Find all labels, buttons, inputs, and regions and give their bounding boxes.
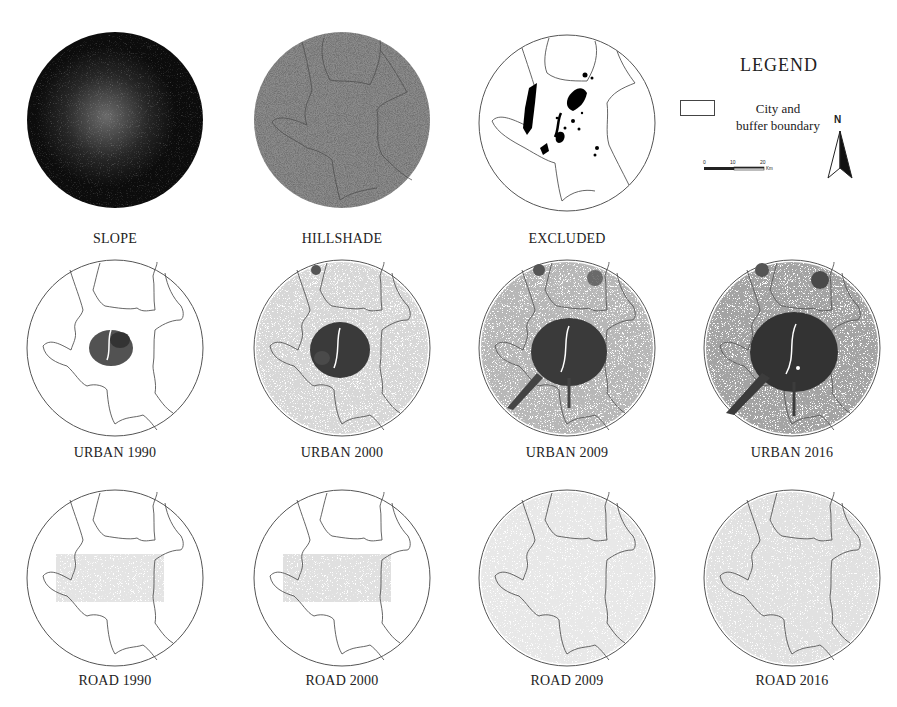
caption-urban-1990: URBAN 1990 — [15, 445, 215, 461]
svg-text:20: 20 — [760, 159, 766, 165]
map-panel-urban-1990 — [25, 258, 205, 438]
road-2000-map — [252, 488, 432, 668]
map-panel-road-2009 — [477, 488, 657, 668]
urban-2009-map — [477, 258, 657, 438]
svg-text:10: 10 — [730, 159, 736, 165]
slope-raster-map — [25, 30, 205, 210]
excluded-areas-map — [477, 33, 657, 213]
svg-text:N: N — [834, 114, 841, 125]
road-2009-map — [477, 488, 657, 668]
urban-2000-map — [252, 258, 432, 438]
map-panel-urban-2000 — [252, 258, 432, 438]
map-panel-road-2016 — [702, 488, 882, 668]
urban-1990-map — [25, 258, 205, 438]
road-1990-map — [25, 488, 205, 668]
urban-2016-map — [702, 258, 882, 438]
legend-boundary-label: City and buffer boundary — [728, 100, 828, 134]
caption-urban-2016: URBAN 2016 — [692, 445, 892, 461]
hillshade-raster-map — [252, 30, 432, 210]
caption-road-2016: ROAD 2016 — [692, 673, 892, 689]
map-panel-hillshade — [252, 30, 432, 210]
scale-bar: 0 10 20 Km — [700, 158, 780, 178]
caption-road-2000: ROAD 2000 — [242, 673, 442, 689]
legend-title: LEGEND — [740, 55, 818, 76]
road-2016-map — [702, 488, 882, 668]
map-panel-road-2000 — [252, 488, 432, 668]
legend-boundary-symbol — [680, 100, 715, 116]
caption-road-1990: ROAD 1990 — [15, 673, 215, 689]
map-panel-urban-2009 — [477, 258, 657, 438]
caption-slope: SLOPE — [15, 231, 215, 247]
map-panel-excluded — [477, 33, 657, 213]
caption-road-2009: ROAD 2009 — [467, 673, 667, 689]
svg-text:0: 0 — [703, 159, 706, 165]
svg-text:Km: Km — [766, 166, 773, 171]
caption-urban-2000: URBAN 2000 — [242, 445, 442, 461]
map-panel-urban-2016 — [702, 258, 882, 438]
caption-hillshade: HILLSHADE — [242, 231, 442, 247]
map-panel-road-1990 — [25, 488, 205, 668]
north-arrow: N — [825, 113, 855, 183]
caption-excluded: EXCLUDED — [467, 231, 667, 247]
map-panel-slope — [25, 30, 205, 210]
caption-urban-2009: URBAN 2009 — [467, 445, 667, 461]
